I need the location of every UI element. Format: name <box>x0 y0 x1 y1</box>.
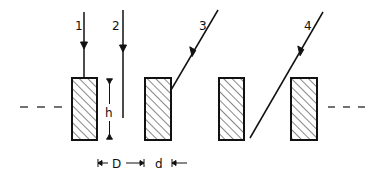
width-label: d <box>155 157 163 171</box>
ray-1-label: 1 <box>75 19 83 33</box>
ray-3-label: 3 <box>199 19 207 33</box>
width-dimension <box>172 159 187 167</box>
height-label: h <box>105 106 113 120</box>
arrow-down-icon <box>120 45 127 52</box>
ray-4-label: 4 <box>304 19 312 33</box>
block-3 <box>219 78 244 140</box>
ray-2-label: 2 <box>112 19 120 33</box>
ray-obstruction-diagram: 1 2 3 4 h D d <box>0 0 376 180</box>
spacing-label: D <box>112 157 121 171</box>
block-4 <box>291 78 317 140</box>
ray-2 <box>120 10 127 118</box>
arrow-down-icon <box>81 42 88 49</box>
ray-3 <box>171 10 218 90</box>
block-2 <box>145 78 171 140</box>
block-1 <box>72 78 97 140</box>
